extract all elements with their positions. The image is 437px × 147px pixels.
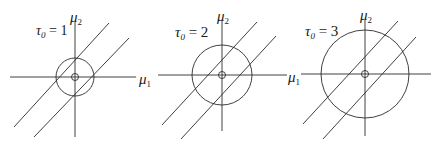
panel-2: τ0 = 2 μ2 (158, 8, 287, 139)
tau-label: τ0 = 3 (305, 23, 338, 41)
mu1-label: μ1 (287, 69, 300, 87)
mu2-label: μ2 (69, 9, 82, 27)
tau-circles-diagram: τ0 = 1 μ2 μ1 τ0 = 2 μ2 τ0 = 3 μ2 μ1 (0, 0, 437, 147)
mu2-label: μ2 (359, 7, 372, 25)
mu1-label: μ1 (138, 71, 151, 89)
panel-1: τ0 = 1 μ2 μ1 (10, 9, 151, 137)
tau-label: τ0 = 1 (36, 23, 67, 40)
panel-3: τ0 = 3 μ2 μ1 (287, 7, 431, 139)
parallel-line-lower (181, 36, 276, 139)
parallel-line-upper (14, 23, 109, 127)
tau-label: τ0 = 2 (175, 24, 208, 42)
mu2-label: μ2 (216, 8, 229, 26)
